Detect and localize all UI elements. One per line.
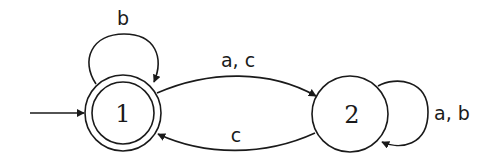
self-loop-2-label: a, b	[434, 102, 470, 124]
state-2-label: 2	[344, 101, 359, 129]
edge-1-to-2	[157, 76, 316, 96]
state-1-label: 1	[115, 100, 130, 128]
edge-2-to-1-label: c	[231, 124, 241, 146]
state-1: 1	[85, 75, 161, 151]
self-loop-1-label: b	[117, 7, 129, 29]
automaton-diagram: b a, c c a, b 1 2	[0, 0, 504, 163]
edge-1-to-2-label: a, c	[221, 49, 255, 71]
state-2: 2	[312, 76, 388, 152]
